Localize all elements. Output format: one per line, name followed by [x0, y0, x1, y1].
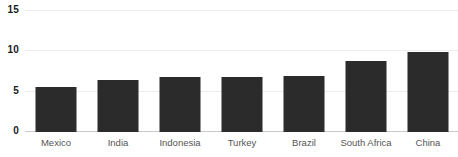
bar-turkey[interactable] — [222, 77, 263, 132]
bar-china[interactable] — [408, 52, 449, 132]
category-label-turkey: Turkey — [211, 137, 273, 148]
bar-india[interactable] — [98, 80, 139, 132]
y-tick-label-10: 10 — [0, 45, 19, 55]
bar-mexico[interactable] — [36, 87, 77, 132]
y-tick-label-15: 15 — [0, 5, 19, 15]
bar-slot-india — [87, 0, 149, 132]
bar-brazil[interactable] — [284, 76, 325, 132]
category-label-china: China — [397, 137, 458, 148]
y-tick-label-5: 5 — [0, 86, 19, 96]
bar-slot-south-africa — [335, 0, 397, 132]
bar-slot-indonesia — [149, 0, 211, 132]
category-label-indonesia: Indonesia — [149, 137, 211, 148]
category-label-brazil: Brazil — [273, 137, 335, 148]
bar-slot-china — [397, 0, 458, 132]
bar-indonesia[interactable] — [160, 77, 201, 132]
y-tick-label-0: 0 — [0, 126, 19, 136]
bar-chart: 15 10 5 0 Mexico India Indonesia Turkey — [0, 0, 458, 157]
category-label-south-africa: South Africa — [335, 137, 397, 148]
bar-south-africa[interactable] — [346, 61, 387, 132]
x-axis-category-labels: Mexico India Indonesia Turkey Brazil Sou… — [25, 133, 458, 157]
bar-slot-brazil — [273, 0, 335, 132]
bar-slot-turkey — [211, 0, 273, 132]
bar-group — [25, 0, 458, 132]
category-label-mexico: Mexico — [25, 137, 87, 148]
category-label-india: India — [87, 137, 149, 148]
bar-slot-mexico — [25, 0, 87, 132]
